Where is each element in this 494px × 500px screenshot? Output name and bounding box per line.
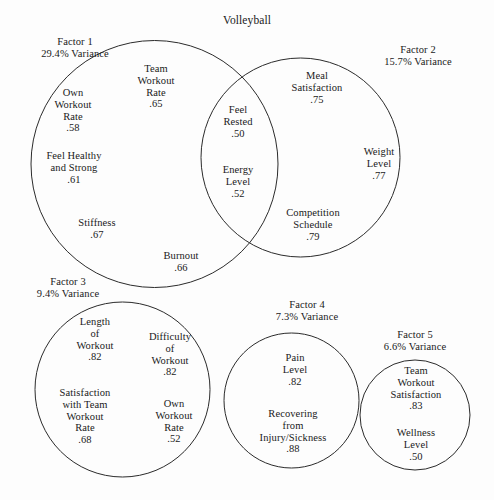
item-own-workout-rate-f3: Own Workout Rate .52: [126, 398, 222, 445]
factor-venn-diagram: Volleyball Factor 1 29.4% Variance Facto…: [0, 0, 494, 500]
factor4-header: Factor 4 7.3% Variance: [247, 299, 367, 323]
item-difficulty-of-workout: Difficulty of Workout .82: [122, 331, 218, 378]
factor5-header: Factor 5 6.6% Variance: [355, 329, 475, 353]
item-stiffness: Stiffness .67: [49, 217, 145, 241]
item-energy-level: Energy Level .52: [197, 164, 279, 199]
item-wellness-level: Wellness Level .50: [368, 427, 464, 462]
item-team-workout-rate-f1: Team Workout Rate .65: [108, 63, 204, 110]
item-weight-level: Weight Level .77: [331, 146, 427, 181]
item-burnout: Burnout .66: [133, 250, 229, 274]
item-competition-schedule: Competition Schedule .79: [258, 207, 368, 242]
item-feel-healthy-and-strong: Feel Healthy and Strong .61: [19, 150, 129, 185]
item-recovering-from-injury-sickness: Recovering from Injury/Sickness .88: [231, 408, 355, 455]
item-meal-satisfaction: Meal Satisfaction .75: [263, 70, 371, 105]
item-feel-rested: Feel Rested .50: [197, 104, 279, 139]
item-satisfaction-with-team-workout-rate: Satisfaction with Team Workout Rate .68: [33, 387, 137, 446]
item-pain-level: Pain Level .82: [247, 352, 343, 387]
factor2-header: Factor 2 15.7% Variance: [358, 44, 478, 68]
item-team-workout-satisfaction: Team Workout Satisfaction .83: [363, 365, 469, 412]
factor3-header: Factor 3 9.4% Variance: [8, 276, 128, 300]
factor1-header: Factor 1 29.4% Variance: [15, 36, 135, 60]
item-own-workout-rate-f1: Own Workout Rate .58: [25, 87, 121, 134]
